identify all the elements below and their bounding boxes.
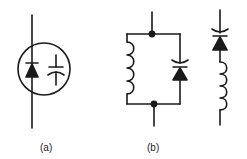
varactor-icon — [212, 29, 228, 50]
panel-b-series-symbol — [212, 10, 228, 125]
diagram-canvas — [0, 0, 247, 159]
panel-b-parallel-tank — [127, 12, 188, 126]
varactor-icon — [172, 60, 188, 80]
inductor-icon — [127, 42, 134, 94]
panel-a-varactor-symbol — [18, 15, 70, 128]
inductor-icon — [220, 62, 227, 110]
panel-b-label: (b) — [147, 142, 159, 153]
panel-a-label: (a) — [40, 142, 52, 153]
top-junction-dot — [149, 31, 154, 36]
capacitor-icon — [48, 55, 64, 85]
envelope-circle — [18, 43, 70, 95]
diode-icon — [26, 63, 38, 77]
